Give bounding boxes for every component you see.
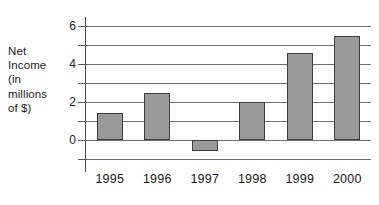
y-axis-tick [78,83,87,84]
bar-chart: Net Income (in millions of $) 6420199519… [0,0,379,205]
bar-2000 [334,36,360,141]
gridline [86,140,371,141]
bar-1999 [287,53,313,140]
y-axis-label-4: 4 [54,58,76,70]
x-axis-label-1996: 1996 [134,172,180,186]
x-axis-label-1999: 1999 [277,172,323,186]
gridline [86,83,371,84]
y-axis-tick [78,121,87,122]
x-axis-label-1995: 1995 [87,172,133,186]
x-axis-label-1997: 1997 [182,172,228,186]
gridline [86,26,371,27]
gridline [86,159,371,160]
y-axis-tick [78,140,87,141]
y-axis-label-6: 6 [54,20,76,32]
plot-area [86,20,371,165]
bar-1997 [192,140,218,151]
x-axis-label-1998: 1998 [229,172,275,186]
y-axis-tick [78,26,87,27]
y-axis-tick [78,45,87,46]
x-axis-label-2000: 2000 [324,172,370,186]
y-axis-tick [78,159,87,160]
y-axis-label-0: 0 [54,134,76,146]
bar-1995 [97,113,123,140]
y-axis-label-2: 2 [54,96,76,108]
bar-1998 [239,102,265,140]
gridline [86,64,371,65]
gridline [86,121,371,122]
y-axis-tick [78,102,87,103]
y-axis-tick [78,64,87,65]
gridline [86,45,371,46]
bar-1996 [144,93,170,141]
gridline [86,102,371,103]
